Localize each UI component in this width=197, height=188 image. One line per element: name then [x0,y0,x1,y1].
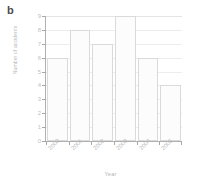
bar [92,44,113,141]
y-axis-tick-label: 2 [38,110,41,116]
y-axis-tick [42,99,46,100]
y-axis-tick [42,30,46,31]
x-axis-tick [114,141,115,145]
y-axis-tick [42,58,46,59]
bar-series [46,16,182,141]
y-axis-tick-label: 6 [38,55,41,61]
x-axis-title: Year [0,171,197,177]
y-axis-tick-label: 3 [38,96,41,102]
y-axis-tick [42,16,46,17]
y-axis-tick-label: 9 [38,13,41,19]
bar [160,85,181,141]
y-axis-tick-label: 4 [38,82,41,88]
bar [138,58,159,141]
y-axis-tick-label: 8 [38,27,41,33]
x-axis-tick [159,141,160,145]
y-axis-tick-label: 5 [38,69,41,75]
y-axis-tick [42,44,46,45]
y-axis-tick-label: 1 [38,124,41,130]
y-axis-tick-label: 0 [38,138,41,144]
y-axis-tick [42,127,46,128]
y-axis-tick [42,85,46,86]
x-axis-tick [137,141,138,145]
y-axis-title: Number of accidents [12,2,18,98]
y-axis-tick-label: 7 [38,41,41,47]
x-axis-tick [46,141,47,145]
bar [47,58,68,141]
bar [115,16,136,141]
plot-area: 0123456789200020012002200320042005 [45,16,182,142]
y-axis-tick [42,72,46,73]
bar [70,30,91,141]
x-axis-tick [69,141,70,145]
figure-panel-b: b Number of accidents 012345678920002001… [0,0,197,188]
x-axis-tick [181,141,182,145]
x-axis-tick [91,141,92,145]
y-axis-tick [42,113,46,114]
